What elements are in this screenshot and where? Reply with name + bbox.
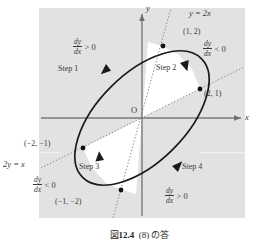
point-marker-2-1: [198, 87, 203, 92]
step-label-2: Step 2: [156, 64, 176, 72]
point-label-1-2: (1, 2): [183, 28, 200, 36]
fraction-denominator: dx: [73, 47, 82, 55]
fraction-dy-dx: dy dx: [73, 38, 82, 55]
point-marker-minus2-minus1: [81, 146, 86, 151]
point-label-minus2-minus1: (−2, −1): [24, 140, 50, 148]
caption-text: (8) の答: [139, 230, 170, 240]
figure-caption: 図12.4 (8) の答: [0, 228, 279, 241]
derivative-annotation-step3: dy dx < 0: [33, 176, 56, 193]
relation-sign: > 0: [177, 191, 188, 201]
line-equation-y-2x: y = 2x: [189, 9, 211, 18]
caption-prefix: 図: [110, 230, 119, 240]
fraction-dy-dx: dy dx: [33, 176, 42, 193]
figure-page: x y O y = 2x 2y = x (1, 2) (2, 1) (−2, −…: [0, 0, 279, 248]
fraction-denominator: dx: [203, 49, 212, 57]
derivative-annotation-step1: dy dx > 0: [73, 38, 96, 55]
fraction-dy-dx: dy dx: [165, 187, 174, 204]
step-label-1: Step 1: [58, 65, 78, 73]
derivative-annotation-step4: dy dx > 0: [165, 187, 188, 204]
fraction-dy-dx: dy dx: [203, 40, 212, 57]
fraction-numerator: dy: [33, 176, 42, 184]
y-axis-label: y: [146, 4, 150, 13]
fraction-numerator: dy: [73, 38, 82, 46]
fraction-denominator: dx: [33, 185, 42, 193]
scan-streak-right: [200, 152, 245, 153]
point-label-2-1: (2, 1): [204, 90, 221, 98]
point-marker-minus1-minus2: [119, 188, 124, 193]
origin-label: O: [131, 106, 137, 115]
fraction-numerator: dy: [203, 40, 212, 48]
step-label-3: Step 3: [79, 163, 99, 171]
point-label-minus1-minus2: (−1, −2): [55, 198, 81, 206]
relation-sign: < 0: [215, 44, 226, 54]
caption-number: 12.4: [119, 230, 135, 240]
step-label-4: Step 4: [182, 163, 202, 171]
fraction-numerator: dy: [165, 187, 174, 195]
relation-sign: < 0: [45, 180, 56, 190]
relation-sign: > 0: [85, 42, 96, 52]
x-axis-label: x: [245, 113, 249, 122]
fraction-denominator: dx: [165, 196, 174, 204]
point-marker-1-2: [161, 44, 166, 49]
line-equation-2y-x: 2y = x: [3, 160, 25, 169]
figure-graphic-area: x y O y = 2x 2y = x (1, 2) (2, 1) (−2, −…: [0, 0, 279, 222]
derivative-annotation-step2: dy dx < 0: [203, 40, 226, 57]
scan-streak-left: [39, 152, 61, 153]
